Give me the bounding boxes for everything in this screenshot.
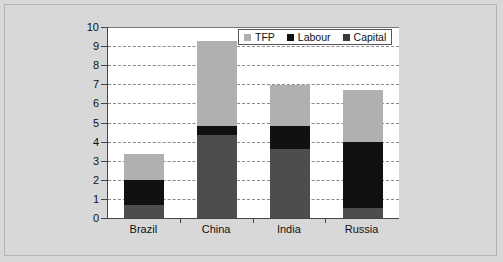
chart-figure: 012345678910 BrazilChinaIndiaRussia TFPL… (0, 0, 503, 262)
y-axis-tick-label: 3 (73, 155, 99, 166)
legend-swatch-icon (343, 34, 350, 41)
bar-russia (343, 27, 383, 218)
legend-entry-capital: Capital (343, 32, 387, 43)
y-axis-tick-label: 10 (73, 22, 99, 33)
bar-segment-russia-labour (343, 142, 383, 209)
x-axis-tick-label-russia: Russia (317, 223, 407, 235)
bar-segment-russia-capital (343, 208, 383, 218)
plot-area (107, 27, 399, 219)
y-axis-tick-label: 9 (73, 41, 99, 52)
y-axis-tick-label: 0 (73, 213, 99, 224)
bar-segment-india-tfp (270, 85, 310, 126)
bar-segment-brazil-labour (124, 180, 164, 205)
bar-segment-india-labour (270, 126, 310, 149)
legend-label: Labour (298, 32, 331, 43)
bar-china (197, 27, 237, 218)
bar-segment-brazil-capital (124, 205, 164, 218)
legend-swatch-icon (244, 34, 251, 41)
x-axis-tick-mark (180, 218, 181, 223)
y-axis-tick-label: 6 (73, 98, 99, 109)
bar-segment-russia-tfp (343, 90, 383, 142)
bar-segment-india-capital (270, 149, 310, 218)
legend-entry-labour: Labour (287, 32, 331, 43)
bar-brazil (124, 27, 164, 218)
y-axis-tick-label: 8 (73, 60, 99, 71)
bar-segment-china-labour (197, 126, 237, 135)
chart-legend: TFPLabourCapital (238, 29, 392, 45)
legend-label: Capital (354, 32, 387, 43)
y-axis-tick-label: 2 (73, 174, 99, 185)
x-axis-tick-mark (325, 218, 326, 223)
legend-swatch-icon (287, 34, 294, 41)
legend-entry-tfp: TFP (244, 32, 275, 43)
bar-india (270, 27, 310, 218)
bar-segment-china-tfp (197, 41, 237, 126)
y-axis-tick-label: 4 (73, 136, 99, 147)
y-axis-tick-label: 7 (73, 79, 99, 90)
y-axis-tick-label: 1 (73, 193, 99, 204)
x-axis-tick-mark (253, 218, 254, 223)
bar-segment-brazil-tfp (124, 154, 164, 180)
legend-label: TFP (255, 32, 275, 43)
bar-segment-china-capital (197, 135, 237, 218)
y-axis-tick-label: 5 (73, 117, 99, 128)
